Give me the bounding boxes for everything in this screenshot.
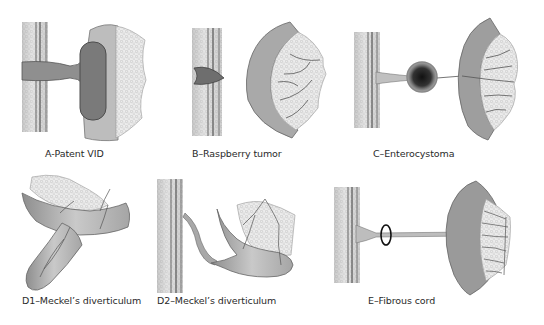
panel-d1-meckels-diverticulum: D1–Meckel’s diverticulum [0,165,150,325]
duct-lumen [80,42,106,120]
panel-e-fibrous-cord: E–Fibrous cord [320,165,544,325]
panel-d2-meckels-diverticulum: D2–Meckel’s diverticulum [145,165,325,325]
panel-c-enterocystoma: C–Enterocystoma [350,0,544,160]
cyst [407,62,437,92]
enterocystoma-illustration [350,0,544,145]
caption-e: E–Fibrous cord [368,295,435,306]
meckels-diverticulum-with-band-illustration [145,165,325,300]
meckels-diverticulum-illustration [0,165,150,300]
caption-b: B–Raspberry tumor [192,148,282,159]
caption-d1: D1–Meckel’s diverticulum [22,295,141,306]
caption-c: C–Enterocystoma [373,148,454,159]
raspberry-tumor-illustration [180,0,360,145]
caption-a: A-Patent VID [45,148,104,159]
caption-d2: D2–Meckel’s diverticulum [157,295,276,306]
mesentery [116,26,146,138]
vitelline-duct [22,60,84,84]
patent-vid-illustration [0,0,180,145]
fibrous-cord-illustration [320,165,544,300]
panel-a-patent-vid: A-Patent VID [0,0,180,160]
abdominal-wall [157,179,183,293]
fibrous-band [183,213,217,265]
panel-b-raspberry-tumor: B–Raspberry tumor [180,0,360,160]
